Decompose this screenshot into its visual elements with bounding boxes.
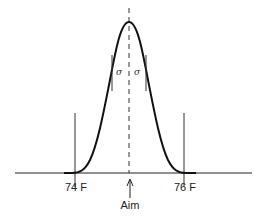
distribution-diagram: σ σ 74 F 76 F Aim — [0, 0, 263, 217]
bell-curve — [64, 22, 196, 173]
aim-label: Aim — [121, 199, 140, 211]
lower-spec-label: 74 F — [65, 181, 87, 193]
sigma-right-label: σ — [134, 67, 141, 77]
sigma-left-label: σ — [116, 67, 123, 77]
upper-spec-label: 76 F — [174, 181, 196, 193]
